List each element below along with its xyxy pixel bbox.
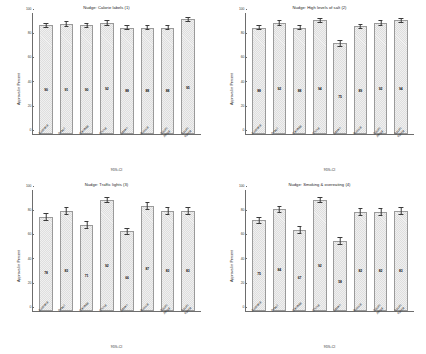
bar-wrapper: 88 — [158, 13, 178, 134]
bar[interactable]: 95 — [181, 19, 194, 134]
bar-value-label: 75 — [334, 95, 345, 99]
error-bar — [188, 17, 189, 22]
error-bar — [360, 208, 361, 215]
x-axis-caption: 95%-CI — [32, 345, 201, 349]
bar[interactable]: 94 — [313, 20, 326, 134]
y-tick-label: 100 — [239, 184, 246, 188]
bar-value-label: 58 — [334, 280, 345, 284]
bar-wrapper: 94 — [310, 13, 330, 134]
y-axis-label: Approval in Percent — [17, 249, 21, 281]
chart-panel-2: Nudge: High levels of salt (2)Approval i… — [213, 0, 426, 177]
error-bar — [279, 206, 280, 213]
error-bar — [127, 228, 128, 235]
y-tick-label: 100 — [239, 7, 246, 11]
bar-wrapper: 71 — [77, 190, 97, 311]
bar-wrapper: 91 — [56, 13, 76, 134]
chart-panel-4: Nudge: Smoking & overeating (4)Approval … — [213, 177, 426, 354]
bar-wrapper: 87 — [137, 190, 157, 311]
x-tick-labels: AustraliaBrazilCanadaChinaJapanRussiaSou… — [245, 135, 414, 155]
error-bar — [380, 20, 381, 25]
error-bar — [401, 18, 402, 23]
bar[interactable]: 83 — [394, 211, 407, 311]
bar[interactable]: 87 — [141, 206, 154, 311]
error-bar — [147, 25, 148, 30]
bar[interactable]: 88 — [252, 28, 265, 134]
bar[interactable]: 92 — [313, 200, 326, 311]
bar[interactable]: 92 — [273, 23, 286, 134]
x-axis-caption: 95%-CI — [245, 168, 414, 172]
error-bar — [107, 197, 108, 202]
error-bar — [320, 197, 321, 202]
bar[interactable]: 84 — [273, 209, 286, 311]
bar-value-label: 75 — [253, 272, 264, 276]
bar-wrapper: 88 — [290, 13, 310, 134]
bar-value-label: 82 — [355, 269, 366, 273]
bar-wrapper: 89 — [350, 13, 370, 134]
bar-wrapper: 83 — [56, 190, 76, 311]
bar[interactable]: 75 — [252, 220, 265, 311]
bar-wrapper: 94 — [391, 13, 411, 134]
bar[interactable]: 83 — [161, 211, 174, 311]
plot-frame: 0204060801009091909288888895 — [32, 13, 201, 135]
bars-container: 7883719266878383 — [33, 190, 201, 311]
bar-wrapper: 92 — [269, 13, 289, 134]
bar-wrapper: 82 — [350, 190, 370, 311]
bar[interactable]: 88 — [161, 28, 174, 134]
bar[interactable]: 82 — [354, 212, 367, 311]
bar-wrapper: 75 — [330, 13, 350, 134]
bar-value-label: 82 — [375, 269, 386, 273]
bar[interactable]: 88 — [293, 28, 306, 134]
bar[interactable]: 82 — [374, 212, 387, 311]
error-bar — [107, 20, 108, 25]
bar[interactable]: 90 — [39, 25, 52, 134]
error-bar — [46, 213, 47, 220]
bar[interactable]: 83 — [181, 211, 194, 311]
bar-wrapper: 92 — [371, 13, 391, 134]
bar[interactable]: 90 — [80, 25, 93, 134]
error-bar — [259, 217, 260, 224]
y-tick-label: 100 — [26, 184, 33, 188]
plot-frame: 0204060801007883719266878383 — [32, 190, 201, 312]
bar-value-label: 92 — [101, 87, 112, 91]
error-bar — [86, 221, 87, 228]
bar[interactable]: 92 — [374, 23, 387, 134]
bar-value-label: 94 — [395, 87, 406, 91]
bar[interactable]: 89 — [354, 26, 367, 134]
x-tick-labels: AustraliaBrazilCanadaChinaJapanRussiaSou… — [245, 312, 414, 332]
bar[interactable]: 83 — [60, 211, 73, 311]
bar-wrapper: 92 — [97, 190, 117, 311]
bar-value-label: 67 — [294, 276, 305, 280]
bar-value-label: 66 — [121, 276, 132, 280]
error-bar — [401, 207, 402, 214]
x-tick-labels: AustraliaBrazilCanadaChinaJapanRussiaSou… — [32, 135, 201, 155]
bar-value-label: 88 — [294, 89, 305, 93]
bar-value-label: 94 — [314, 87, 325, 91]
bar-value-label: 71 — [81, 274, 92, 278]
error-bar — [279, 20, 280, 25]
bar[interactable]: 91 — [60, 24, 73, 134]
error-bar — [360, 24, 361, 29]
y-tick-label: 100 — [26, 7, 33, 11]
error-bar — [167, 25, 168, 30]
bar[interactable]: 88 — [120, 28, 133, 134]
error-bar — [299, 226, 300, 233]
bar[interactable]: 78 — [39, 217, 52, 311]
chart-panel-1: Nudge: Calorie labels (1)Approval in Per… — [0, 0, 213, 177]
error-bar — [167, 207, 168, 214]
error-bar — [320, 18, 321, 23]
error-bar — [340, 237, 341, 244]
plot-frame: 0204060801007584679258828283 — [245, 190, 414, 312]
error-bar — [380, 208, 381, 215]
bar-value-label: 83 — [395, 269, 406, 273]
bar-wrapper: 75 — [249, 190, 269, 311]
bar[interactable]: 88 — [141, 28, 154, 134]
bar-value-label: 92 — [274, 87, 285, 91]
bar-value-label: 88 — [142, 89, 153, 93]
bar[interactable]: 92 — [100, 23, 113, 134]
bar-value-label: 83 — [61, 269, 72, 273]
bar-value-label: 78 — [40, 271, 51, 275]
bar-value-label: 83 — [162, 269, 173, 273]
bar-wrapper: 83 — [391, 190, 411, 311]
bar[interactable]: 94 — [394, 20, 407, 134]
bar[interactable]: 92 — [100, 200, 113, 311]
